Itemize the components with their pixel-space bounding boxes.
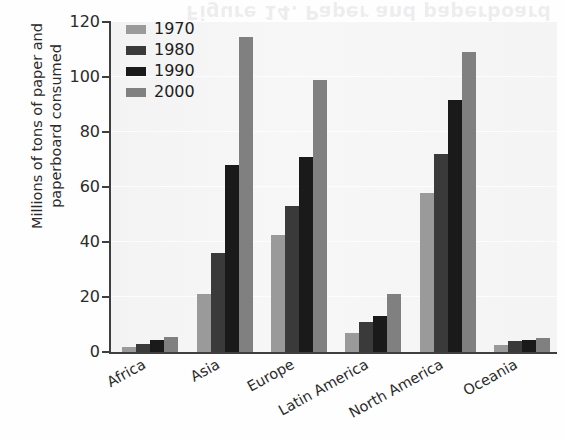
x-axis-label-oceania: Oceania <box>460 356 520 399</box>
bar-latin-america-2000 <box>387 294 401 352</box>
y-tick-label-60: 60 <box>4 177 100 196</box>
bar-group-north-america <box>420 22 476 352</box>
bar-europe-2000 <box>313 80 327 352</box>
bar-europe-1990 <box>299 157 313 352</box>
legend: 1970198019902000 <box>126 20 195 101</box>
bar-group-oceania <box>494 22 550 352</box>
bar-africa-1970 <box>122 347 136 353</box>
legend-item-1970: 1970 <box>126 20 195 38</box>
y-tick-label-80: 80 <box>4 122 100 141</box>
legend-label-1980: 1980 <box>154 42 195 58</box>
legend-swatch-1990 <box>126 67 146 76</box>
y-tick-40 <box>102 241 110 243</box>
bar-north-america-1970 <box>420 193 434 353</box>
bar-north-america-1990 <box>448 100 462 352</box>
bar-group-latin-america <box>345 22 401 352</box>
bar-asia-1970 <box>197 294 211 352</box>
y-tick-label-20: 20 <box>4 287 100 306</box>
bar-oceania-1990 <box>522 340 536 352</box>
bar-oceania-1970 <box>494 345 508 352</box>
y-tick-100 <box>102 76 110 78</box>
y-tick-label-0: 0 <box>4 342 100 361</box>
legend-label-1970: 1970 <box>154 21 195 37</box>
bar-north-america-2000 <box>462 52 476 352</box>
bar-africa-1990 <box>150 340 164 352</box>
bar-europe-1970 <box>271 235 285 352</box>
chart-page: Figure 14. Paper and paperboard Millions… <box>0 0 565 440</box>
legend-label-1990: 1990 <box>154 63 195 79</box>
bar-africa-2000 <box>164 337 178 352</box>
x-axis-label-asia: Asia <box>188 356 222 385</box>
legend-swatch-1970 <box>126 25 146 34</box>
x-axis-label-africa: Africa <box>104 356 148 390</box>
legend-swatch-2000 <box>126 88 146 97</box>
y-tick-0 <box>102 351 110 353</box>
y-tick-20 <box>102 296 110 298</box>
bar-oceania-1980 <box>508 341 522 352</box>
x-axis-line <box>109 352 557 354</box>
bar-latin-america-1990 <box>373 316 387 352</box>
bar-africa-1980 <box>136 344 150 352</box>
y-tick-120 <box>102 21 110 23</box>
y-tick-label-100: 100 <box>4 67 100 86</box>
bar-latin-america-1970 <box>345 333 359 352</box>
bar-group-asia <box>197 22 253 352</box>
y-tick-80 <box>102 131 110 133</box>
y-tick-60 <box>102 186 110 188</box>
x-axis-labels: AfricaAsiaEuropeLatin AmericaNorth Ameri… <box>111 356 557 440</box>
legend-swatch-1980 <box>126 46 146 55</box>
bar-asia-2000 <box>239 37 253 352</box>
legend-item-1980: 1980 <box>126 41 195 59</box>
legend-label-2000: 2000 <box>154 84 195 100</box>
bar-group-europe <box>271 22 327 352</box>
bar-oceania-2000 <box>536 338 550 352</box>
bar-north-america-1980 <box>434 154 448 352</box>
x-axis-label-europe: Europe <box>244 356 296 395</box>
bar-asia-1980 <box>211 253 225 352</box>
bar-latin-america-1980 <box>359 322 373 352</box>
y-tick-label-40: 40 <box>4 232 100 251</box>
legend-item-2000: 2000 <box>126 83 195 101</box>
bar-asia-1990 <box>225 165 239 352</box>
y-tick-label-120: 120 <box>4 12 100 31</box>
bar-europe-1980 <box>285 206 299 352</box>
legend-item-1990: 1990 <box>126 62 195 80</box>
